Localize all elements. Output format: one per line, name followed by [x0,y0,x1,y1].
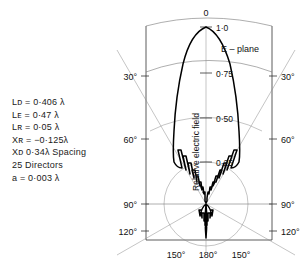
angle-label-0: 0 [203,8,208,18]
angle-label-right-90: 90° [281,200,295,210]
radial-label-1-0: 1·0 [216,23,229,33]
grid-arc-075 [146,60,272,72]
radiation-pattern-curve [173,27,240,238]
angle-label-bottom-180: 180° [199,250,218,260]
figure-root: Lᴅ = 0·406 λ Lᴇ = 0·47 λ Lʀ = 0·05 λ Xʀ … [0,0,305,272]
angle-label-right-60: 60° [281,135,295,145]
angle-label-bottom-150-right: 150° [232,250,251,260]
angle-label-left-30: 30° [123,72,137,82]
radial-label-0-50: 0·50 [216,114,233,124]
angular-grid [117,26,295,255]
angle-label-bottom-150-left: 150° [167,250,186,260]
angle-label-right-120: 120° [281,227,300,237]
angle-label-left-90: 90° [123,200,137,210]
frame-top-arc [146,18,272,26]
polar-plot: 0 1·0 0·75 0·50 0·25 Relative electric f… [0,0,305,272]
radial-label-0-25: 0·25 [216,158,233,168]
radial-axis-label: Relative electric field [191,113,201,191]
radial-grid [146,60,272,246]
radial-label-0-75: 0·75 [216,69,233,79]
e-plane-label: E – plane [221,44,259,54]
angle-label-left-60: 60° [123,135,137,145]
angle-label-left-120: 120° [118,227,137,237]
pattern-path [173,27,240,238]
angle-label-right-30: 30° [281,72,295,82]
